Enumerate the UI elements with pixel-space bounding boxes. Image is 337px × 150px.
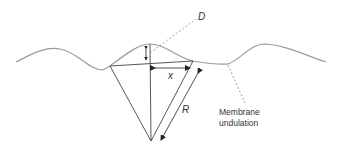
x-label: x xyxy=(167,70,174,81)
chord-line xyxy=(110,61,193,66)
membrane-label-line2: undulation xyxy=(219,118,259,128)
membrane-curve xyxy=(16,44,326,70)
d-leader-line xyxy=(150,19,196,53)
membrane-diagram: x R D Membrane undulation xyxy=(0,0,337,150)
r-arrow xyxy=(161,73,198,140)
radius-left-line xyxy=(110,66,151,141)
d-label: D xyxy=(198,11,205,22)
center-vertical-line xyxy=(150,44,151,141)
r-label: R xyxy=(182,104,189,115)
membrane-leader-line xyxy=(228,65,245,103)
membrane-label-line1: Membrane xyxy=(219,107,260,117)
